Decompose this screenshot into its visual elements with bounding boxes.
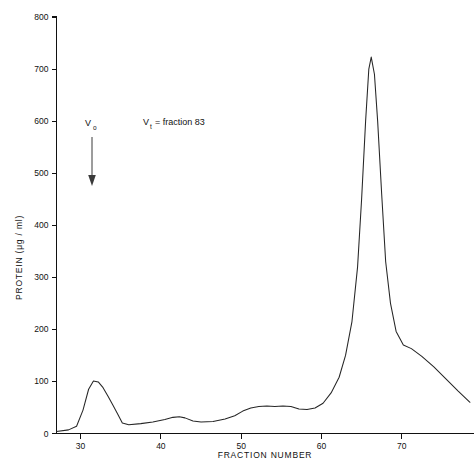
x-tick-label: 30 bbox=[76, 441, 86, 451]
y-tick-label: 400 bbox=[34, 220, 48, 230]
void-volume-label: V bbox=[85, 118, 91, 128]
down-arrow-icon-head bbox=[88, 175, 96, 186]
total-volume-subscript: t bbox=[150, 123, 152, 130]
total-volume-label: V bbox=[143, 117, 149, 127]
y-tick-label: 500 bbox=[34, 168, 48, 178]
y-tick-label: 100 bbox=[34, 376, 48, 386]
chart-plot-area: 0100200300400500600700800 3040506070 PRO… bbox=[0, 0, 475, 475]
y-tick-label: 300 bbox=[34, 272, 48, 282]
x-tick-label: 40 bbox=[156, 441, 166, 451]
y-tick-label: 700 bbox=[34, 64, 48, 74]
protein-elution-curve bbox=[57, 57, 470, 431]
y-axis-ticks: 0100200300400500600700800 bbox=[34, 12, 56, 439]
total-volume-value: = fraction 83 bbox=[155, 117, 205, 127]
x-axis-ticks: 3040506070 bbox=[76, 434, 407, 451]
y-tick-label: 800 bbox=[34, 12, 48, 22]
void-volume-annotation: V o bbox=[85, 118, 97, 186]
y-tick-label: 200 bbox=[34, 324, 48, 334]
x-tick-label: 60 bbox=[317, 441, 327, 451]
x-tick-label: 70 bbox=[397, 441, 407, 451]
x-axis-title: FRACTION NUMBER bbox=[218, 450, 313, 460]
void-volume-subscript: o bbox=[93, 124, 97, 131]
y-tick-label: 0 bbox=[44, 429, 49, 439]
chromatogram-figure: 0100200300400500600700800 3040506070 PRO… bbox=[0, 0, 475, 475]
total-volume-annotation: V t = fraction 83 bbox=[143, 117, 205, 130]
y-axis-title: PROTEIN (μg / ml) bbox=[14, 215, 24, 300]
y-tick-label: 600 bbox=[34, 116, 48, 126]
x-tick-label: 50 bbox=[236, 441, 246, 451]
